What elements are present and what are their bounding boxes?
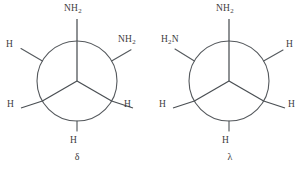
delta-amine-top-label: NH2	[64, 4, 82, 14]
delta-hydrogen-upper-left-label: H	[6, 40, 13, 50]
lambda-back-bond-upper-right	[264, 50, 283, 61]
delta-front-bond-lower-right	[77, 81, 112, 101]
lambda-front-extension-lower-right	[264, 101, 285, 108]
delta-front-extension-lower-left	[21, 101, 42, 108]
lambda-hydrogen-bottom-label: H	[222, 136, 229, 146]
lambda-front-extension-lower-left	[173, 101, 194, 108]
delta-front-bond-lower-left	[42, 81, 77, 101]
lambda-front-bond-lower-right	[229, 81, 264, 101]
lambda-structure	[173, 19, 285, 131]
lambda-amine-upper-left-label: H2N	[161, 35, 179, 45]
lambda-hydrogen-lower-left-label: H	[159, 100, 166, 110]
delta-amine-upper-right-label: NH2	[118, 35, 136, 45]
delta-hydrogen-lower-left-label: H	[7, 100, 14, 110]
lambda-conformer-name: λ	[215, 152, 245, 162]
delta-conformer-name: δ	[62, 152, 92, 162]
delta-back-bond-upper-right	[112, 50, 131, 61]
lambda-amine-top-label: NH2	[216, 4, 234, 14]
lambda-front-bond-lower-left	[194, 81, 229, 101]
lambda-hydrogen-upper-right-label: H	[286, 40, 293, 50]
newman-projection-figure: NH2 NH2 H H H H δ NH2 H2N H H H H λ	[0, 0, 306, 172]
lambda-back-bond-upper-left	[175, 49, 194, 61]
delta-structure	[21, 19, 133, 131]
lambda-hydrogen-lower-right-label: H	[288, 100, 295, 110]
delta-hydrogen-lower-right-label: H	[124, 100, 131, 110]
delta-back-bond-upper-left	[21, 49, 42, 61]
delta-hydrogen-bottom-label: H	[70, 136, 77, 146]
structure-lines	[0, 0, 306, 172]
